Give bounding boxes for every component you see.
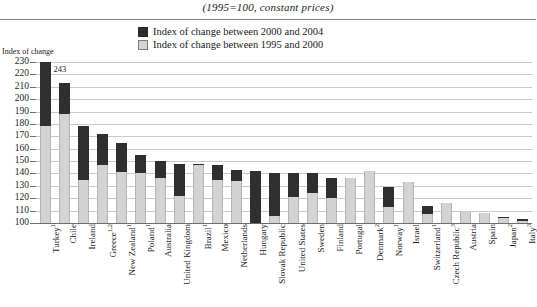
bar-switzerland[interactable] [422,206,433,223]
bar-segment-2000-2004 [78,126,89,179]
bar-brazil[interactable] [193,164,204,223]
bar-spain[interactable] [479,213,490,223]
bar-chile[interactable] [59,83,70,223]
y-tick-label-150: 150 [3,156,29,166]
bar-australia[interactable] [155,161,166,223]
bar-denmark[interactable] [364,185,375,223]
bar-greece[interactable] [97,134,108,223]
x-axis-label-greece: Greece1,2 [107,224,118,258]
bar-segment-1995-2000 [307,193,318,223]
bar-segment-2000-2004 [40,62,51,126]
y-axis-title: Index of change [2,47,54,56]
y-tick-mark-120 [30,198,36,199]
x-axis-label-netherlands: Netherlands [240,224,249,267]
bar-netherlands[interactable] [231,170,242,223]
bar-segment-1995-2000 [460,211,471,223]
y-tick-label-180: 180 [3,119,29,129]
bar-segment-1995-2000 [231,181,242,223]
bar-segment-1995-2000 [116,172,127,223]
plot-area: 243 [36,62,532,223]
bar-segment-1995-2000 [422,214,433,223]
x-axis-label-poland: Poland1 [145,224,156,252]
y-tick-label-130: 130 [3,181,29,191]
bar-norway[interactable] [383,187,394,223]
bar-japan[interactable] [498,217,509,223]
y-tick-mark-230 [30,62,36,63]
legend-label-light: Index of change between 1995 and 2000 [153,39,323,50]
bar-segment-2000-2004 [326,178,337,198]
bar-finland[interactable] [326,178,337,223]
bar-segment-1995-2000 [326,198,337,223]
bar-sweden[interactable] [307,173,318,223]
y-tick-label-220: 220 [3,69,29,79]
gridline-190 [36,112,532,113]
bar-segment-1995-2000 [174,196,185,223]
y-tick-mark-150 [30,161,36,162]
bar-segment-2000-2004 [269,173,280,215]
bar-segment-1995-2000 [193,165,204,223]
bar-segment-2000-2004 [59,83,70,114]
gridline-120 [36,198,532,199]
bar-new-zealand[interactable] [116,143,127,224]
gridline-150 [36,161,532,162]
bar-poland[interactable] [135,155,146,223]
gridline-130 [36,186,532,187]
bar-segment-2000-2004 [174,164,185,196]
title-divider [0,19,536,20]
bar-segment-1995-2000 [345,178,356,223]
x-axis-label-spain: Spain [488,224,497,245]
gridline-110 [36,211,532,212]
x-axis-label-turkey: Turkey1 [50,224,61,253]
bar-segment-2000-2004 [250,171,261,223]
gridline-160 [36,149,532,150]
legend-item-light: Index of change between 1995 and 2000 [138,38,323,51]
legend-item-dark: Index of change between 2000 and 2004 [138,25,323,38]
gridline-220 [36,74,532,75]
x-axis-label-brazil: Brazil1 [202,224,213,249]
bar-portugal[interactable] [345,182,356,223]
bar-segment-1995-2000 [135,173,146,223]
x-axis-label-slovak-republic: Slovak Republic [278,224,287,284]
bar-segment-1995-2000 [59,114,70,223]
bar-hungary[interactable] [250,171,261,223]
bar-segment-2000-2004 [212,165,223,180]
bar-segment-1995-2000 [155,178,166,223]
bar-segment-1995-2000 [498,218,509,223]
x-axis-label-czech-republic: Czech Republic3 [450,224,461,284]
light-square-icon [138,40,148,50]
bar-segment-2000-2004 [231,170,242,181]
gridline-230 [36,62,532,63]
y-tick-mark-180 [30,124,36,125]
y-tick-label-160: 160 [3,144,29,154]
x-axis-label-denmark: Denmark2 [374,224,385,261]
bar-value-annotation: 243 [54,64,67,74]
bar-segment-1995-2000 [269,216,280,223]
bar-segment-2000-2004 [155,161,166,178]
bar-ireland[interactable] [78,126,89,223]
bar-segment-2000-2004 [288,173,299,197]
y-tick-mark-210 [30,87,36,88]
bar-israel[interactable] [403,193,414,223]
y-tick-label-110: 110 [3,206,29,216]
gridline-170 [36,136,532,137]
bar-italy[interactable] [517,219,528,223]
gridline-140 [36,173,532,174]
legend-label-dark: Index of change between 2000 and 2004 [153,26,323,37]
bar-czech-republic[interactable] [441,208,452,223]
bar-austria[interactable] [460,211,471,223]
bar-united-states[interactable] [288,173,299,223]
bar-turkey[interactable] [40,62,51,223]
bar-slovak-republic[interactable] [269,173,280,223]
x-axis-label-australia: Australia [164,224,173,257]
bar-segment-1995-2000 [441,203,452,223]
y-tick-mark-160 [30,149,36,150]
bar-segment-1995-2000 [40,126,51,223]
bar-mexico[interactable] [212,165,223,223]
bar-segment-1995-2000 [288,197,299,223]
gridline-180 [36,124,532,125]
bar-segment-2000-2004 [135,155,146,174]
x-axis-label-mexico: Mexico [221,224,230,252]
bar-united-kingdom[interactable] [174,164,185,223]
y-tick-mark-140 [30,173,36,174]
